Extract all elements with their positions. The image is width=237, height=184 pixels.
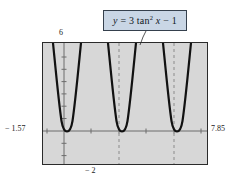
equation-equals: = (120, 16, 126, 27)
equation-exponent: 2 (150, 14, 153, 21)
plot-area (42, 42, 208, 165)
equation-label: y = 3 tan2 x − 1 (113, 14, 177, 26)
y-min-label: − 2 (85, 166, 96, 175)
curve-branch-1 (53, 43, 81, 132)
x-max-label: 7.85 (211, 124, 225, 133)
equation-variable: x (156, 16, 161, 27)
equation-constant: 1 (172, 16, 177, 27)
equation-function: tan (137, 16, 150, 27)
graph-figure: y = 3 tan2 x − 1 (0, 0, 237, 184)
plot-canvas (43, 43, 207, 164)
curve-branch-3 (163, 43, 191, 132)
curve-series (53, 43, 191, 132)
y-max-label: 6 (59, 28, 63, 37)
x-min-label: − 1.57 (5, 124, 26, 133)
equation-minus: − (163, 16, 169, 27)
curve-branch-2 (108, 43, 136, 132)
equation-lhs: y (113, 16, 118, 27)
equation-callout: y = 3 tan2 x − 1 (103, 10, 187, 31)
equation-coefficient: 3 (129, 16, 134, 27)
